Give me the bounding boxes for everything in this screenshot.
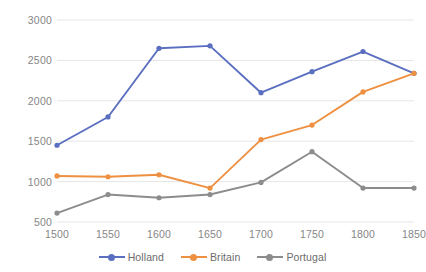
data-point[interactable] bbox=[258, 137, 263, 142]
data-point[interactable] bbox=[309, 149, 314, 154]
legend-label: Britain bbox=[210, 251, 240, 263]
x-tick-label: 1750 bbox=[300, 228, 324, 240]
series-britain bbox=[54, 71, 416, 191]
y-tick-label: 500 bbox=[34, 216, 52, 228]
data-point[interactable] bbox=[207, 192, 212, 197]
x-tick-label: 1500 bbox=[45, 228, 69, 240]
legend-item-holland[interactable]: Holland bbox=[99, 251, 164, 263]
legend-swatch-icon bbox=[181, 252, 207, 262]
x-tick-label: 1700 bbox=[249, 228, 273, 240]
data-point[interactable] bbox=[105, 174, 110, 179]
x-tick-label: 1550 bbox=[96, 228, 120, 240]
data-point[interactable] bbox=[207, 43, 212, 48]
series-holland bbox=[54, 43, 416, 148]
series-portugal bbox=[54, 149, 416, 216]
legend-swatch-icon bbox=[257, 252, 283, 262]
y-tick-label: 3000 bbox=[28, 14, 52, 26]
x-tick-label: 1850 bbox=[402, 228, 426, 240]
y-tick-label: 1500 bbox=[28, 135, 52, 147]
data-point[interactable] bbox=[105, 114, 110, 119]
x-tick-label: 1650 bbox=[198, 228, 222, 240]
y-tick-label: 2000 bbox=[28, 95, 52, 107]
data-point[interactable] bbox=[360, 89, 365, 94]
chart-legend: HollandBritainPortugal bbox=[0, 251, 425, 263]
series-line bbox=[57, 152, 414, 213]
legend-swatch-icon bbox=[99, 252, 125, 262]
chart-gridlines bbox=[57, 20, 414, 222]
data-point[interactable] bbox=[258, 90, 263, 95]
data-point[interactable] bbox=[156, 195, 161, 200]
data-point[interactable] bbox=[54, 211, 59, 216]
data-point[interactable] bbox=[411, 71, 416, 76]
data-point[interactable] bbox=[54, 173, 59, 178]
series-line bbox=[57, 73, 414, 188]
data-point[interactable] bbox=[156, 172, 161, 177]
data-point[interactable] bbox=[411, 185, 416, 190]
x-tick-label: 1600 bbox=[147, 228, 171, 240]
x-axis: 15001550160016501700175018001850 bbox=[0, 228, 425, 246]
y-tick-label: 2500 bbox=[28, 54, 52, 66]
legend-label: Holland bbox=[128, 251, 164, 263]
data-point[interactable] bbox=[360, 185, 365, 190]
y-tick-label: 1000 bbox=[28, 176, 52, 188]
data-point[interactable] bbox=[258, 180, 263, 185]
data-point[interactable] bbox=[105, 192, 110, 197]
data-point[interactable] bbox=[207, 185, 212, 190]
data-point[interactable] bbox=[360, 49, 365, 54]
x-tick-label: 1800 bbox=[351, 228, 375, 240]
chart-series-layer bbox=[54, 43, 416, 215]
data-point[interactable] bbox=[309, 122, 314, 127]
data-point[interactable] bbox=[309, 69, 314, 74]
legend-item-britain[interactable]: Britain bbox=[181, 251, 240, 263]
legend-label: Portugal bbox=[286, 251, 326, 263]
data-point[interactable] bbox=[54, 143, 59, 148]
data-point[interactable] bbox=[156, 46, 161, 51]
legend-item-portugal[interactable]: Portugal bbox=[257, 251, 326, 263]
